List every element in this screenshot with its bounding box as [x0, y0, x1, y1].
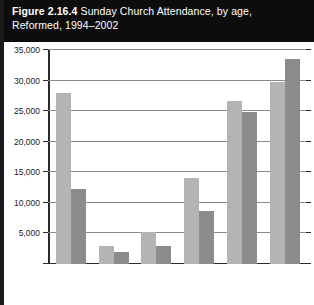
bar-group — [221, 50, 264, 264]
figure-number: 2.16.4 — [48, 5, 78, 17]
y-tick-right-15000 — [306, 171, 311, 172]
bar-2002 — [114, 252, 129, 264]
y-tick-35000 — [43, 49, 48, 50]
bar-1994 — [141, 232, 156, 264]
y-axis-label-15000: 15,000 — [14, 167, 40, 177]
y-axis-label-30000: 30,000 — [14, 76, 40, 86]
bar-group — [50, 50, 93, 264]
figure-word: Figure — [12, 5, 45, 17]
figure-title-banner: Figure 2.16.4 Sunday Church Attendance, … — [4, 0, 314, 42]
y-axis-label-5000: 5,000 — [19, 228, 40, 238]
bar-2002 — [285, 59, 300, 264]
y-tick-right-20000 — [306, 141, 311, 142]
bar-group — [263, 50, 306, 264]
y-tick-0 — [43, 263, 48, 264]
bar-1994 — [270, 82, 285, 264]
bar-1994 — [184, 178, 199, 264]
y-axis-label-35000: 35,000 — [14, 45, 40, 55]
chart-area: 5,00010,00015,00020,00025,00030,00035,00… — [4, 42, 314, 305]
y-tick-right-25000 — [306, 110, 311, 111]
bar-1994 — [99, 246, 114, 264]
y-axis-label-10000: 10,000 — [14, 198, 40, 208]
bar-groups — [50, 50, 307, 264]
bar-2002 — [242, 112, 257, 264]
figure-title-text: Sunday Church Attendance, by age, — [81, 5, 252, 17]
bar-group — [92, 50, 135, 264]
y-tick-right-35000 — [306, 49, 311, 50]
figure-title-line-2: Reformed, 1994–2002 — [12, 19, 306, 33]
plot-region: 5,00010,00015,00020,00025,00030,00035,00… — [48, 50, 306, 264]
y-tick-25000 — [43, 110, 48, 111]
y-tick-right-10000 — [306, 202, 311, 203]
bar-group — [178, 50, 221, 264]
bar-1994 — [227, 101, 242, 264]
y-tick-5000 — [43, 232, 48, 233]
y-axis-label-25000: 25,000 — [14, 106, 40, 116]
y-tick-30000 — [43, 80, 48, 81]
bar-1994 — [56, 93, 71, 264]
bar-2002 — [156, 246, 171, 264]
y-tick-10000 — [43, 202, 48, 203]
figure-container: Figure 2.16.4 Sunday Church Attendance, … — [0, 0, 314, 305]
y-tick-right-30000 — [306, 80, 311, 81]
y-tick-right-0 — [306, 263, 311, 264]
bar-2002 — [71, 189, 86, 264]
figure-title-line-1: Figure 2.16.4 Sunday Church Attendance, … — [12, 5, 306, 19]
bar-group — [135, 50, 178, 264]
y-tick-right-5000 — [306, 232, 311, 233]
y-tick-15000 — [43, 171, 48, 172]
y-axis-label-20000: 20,000 — [14, 137, 40, 147]
bar-2002 — [199, 211, 214, 264]
y-tick-20000 — [43, 141, 48, 142]
